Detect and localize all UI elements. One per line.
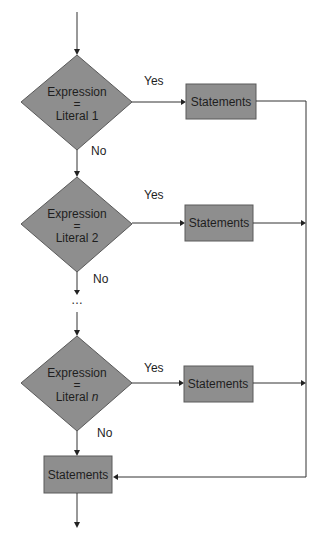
ellipsis: …	[71, 293, 83, 307]
flowchart: Expression = Literal 1 Yes No Statements…	[0, 0, 322, 539]
arrow-head	[301, 380, 306, 386]
literal-label: Literal	[56, 109, 92, 123]
decision-1: Expression = Literal 1	[21, 55, 132, 150]
statements-label: Statements	[188, 377, 249, 391]
decision-2: Expression = Literal 2	[21, 177, 132, 272]
literal-label: Literal	[56, 231, 92, 245]
arrow-head	[74, 49, 80, 55]
statements-label: Statements	[189, 216, 250, 230]
decision-text-line3: Literal 2	[56, 231, 99, 245]
literal-index: 1	[92, 109, 99, 123]
arrow-head	[301, 220, 306, 226]
arrow-head	[113, 474, 118, 480]
no-label: No	[97, 426, 113, 440]
decision-text-line3: Literal 1	[56, 109, 99, 123]
yes-label: Yes	[144, 188, 164, 202]
merge-connector	[256, 101, 306, 477]
arrow-head	[180, 220, 185, 226]
statements-label: Statements	[48, 468, 109, 482]
arrow-head	[74, 522, 80, 528]
literal-index: 2	[92, 231, 99, 245]
decision-text-line3: Literal n	[56, 390, 99, 404]
arrow-head	[74, 330, 80, 336]
arrow-head	[179, 380, 184, 386]
no-label: No	[93, 272, 109, 286]
yes-label: Yes	[144, 361, 164, 375]
arrow-head	[74, 450, 80, 456]
arrow-head	[181, 99, 186, 105]
literal-index: n	[92, 390, 99, 404]
decision-n: Expression = Literal n	[21, 336, 132, 431]
no-label: No	[91, 144, 107, 158]
literal-label: Literal	[56, 390, 92, 404]
yes-label: Yes	[144, 74, 164, 88]
arrow-head	[74, 171, 80, 177]
statements-label: Statements	[191, 95, 252, 109]
